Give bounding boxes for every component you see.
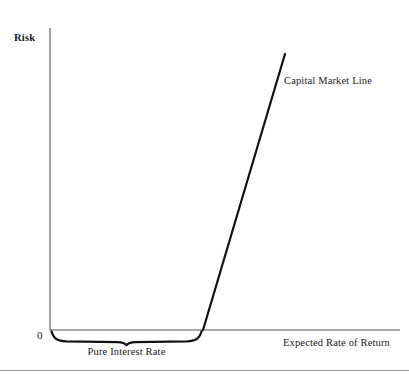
axis-origin-label: 0 <box>37 330 43 341</box>
capital-market-line-figure: Risk 0 Capital Market Line Expected Rate… <box>0 0 409 376</box>
capital-market-line-series <box>203 54 285 330</box>
y-axis-label: Risk <box>14 33 35 44</box>
capital-market-line-label: Capital Market Line <box>284 76 372 87</box>
x-axis-label: Expected Rate of Return <box>283 338 390 349</box>
pure-interest-rate-brace <box>52 332 202 346</box>
pure-interest-rate-label: Pure Interest Rate <box>50 347 203 358</box>
chart-canvas <box>0 0 409 376</box>
page-divider <box>0 370 409 371</box>
